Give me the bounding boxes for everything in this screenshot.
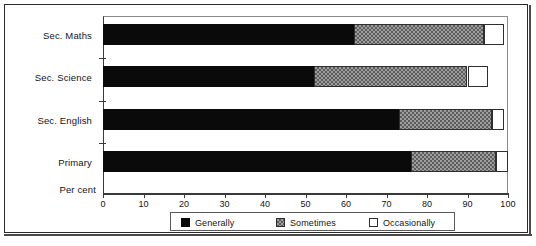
bar-segment-generally-sec-english [103,109,399,130]
x-tick-label-100: 100 [500,199,515,209]
x-tick-label-0: 0 [100,199,105,209]
x-tick-label-20: 20 [179,199,189,209]
legend-label-sometimes: Sometimes [290,218,336,228]
x-tick-100 [508,193,509,198]
y-tick-3 [99,143,106,144]
y-tick-1 [99,58,106,59]
x-axis-title: Per cent [30,184,96,195]
x-tick-60 [346,193,347,198]
legend-swatch-occasionally-icon [369,218,378,227]
legend-swatch-generally-icon [181,218,190,227]
chart-figure: Sec. Maths Sec. Science Sec. English Pri… [0,0,536,246]
y-axis-label-sec-science: Sec. Science [35,72,92,83]
bar-row-sec-science [103,66,508,87]
plot-area: Sec. Maths Sec. Science Sec. English Pri… [0,0,536,246]
bar-segment-sometimes-sec-english [399,109,492,130]
x-tick-10 [144,193,145,198]
y-axis-label-primary: Primary [58,157,92,168]
bar-segment-sometimes-sec-maths [354,24,484,45]
bar-segment-occasionally-primary [496,151,508,172]
legend-item-generally: Generally [181,213,234,232]
bar-segment-occasionally-sec-maths [484,24,504,45]
x-tick-90 [468,193,469,198]
bar-segment-occasionally-sec-english [492,109,504,130]
y-axis-labels: Sec. Maths Sec. Science Sec. English Pri… [0,0,96,246]
x-tick-20 [184,193,185,198]
bar-segment-generally-primary [103,151,411,172]
bar-segment-occasionally-sec-science [468,66,488,87]
x-tick-label-40: 40 [260,199,270,209]
x-tick-0 [103,193,104,198]
x-tick-label-10: 10 [138,199,148,209]
x-tick-label-60: 60 [341,199,351,209]
y-axis-label-sec-english: Sec. English [37,115,92,126]
x-tick-label-70: 70 [381,199,391,209]
bar-row-sec-maths [103,24,508,45]
chart-legend: Generally Sometimes Occasionally [170,212,455,231]
legend-swatch-sometimes-icon [276,218,285,227]
x-tick-40 [265,193,266,198]
x-tick-label-50: 50 [300,199,310,209]
x-tick-label-30: 30 [219,199,229,209]
bar-segment-sometimes-sec-science [314,66,468,87]
x-tick-50 [306,193,307,198]
y-tick-2 [99,101,106,102]
bar-segment-generally-sec-maths [103,24,354,45]
legend-label-occasionally: Occasionally [383,218,435,228]
x-tick-label-90: 90 [462,199,472,209]
bar-segment-generally-sec-science [103,66,314,87]
legend-item-occasionally: Occasionally [369,213,435,232]
bar-segment-sometimes-primary [411,151,496,172]
legend-item-sometimes: Sometimes [276,213,336,232]
x-tick-80 [427,193,428,198]
bar-row-sec-english [103,109,508,130]
x-tick-30 [225,193,226,198]
legend-label-generally: Generally [195,218,234,228]
y-axis-label-sec-maths: Sec. Maths [43,30,92,41]
x-tick-label-80: 80 [422,199,432,209]
bar-row-primary [103,151,508,172]
x-tick-70 [387,193,388,198]
